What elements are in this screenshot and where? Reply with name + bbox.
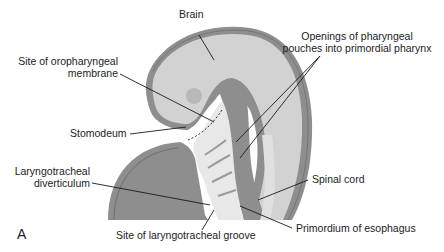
label-esophagus: Primordium of esophagus bbox=[296, 222, 416, 234]
label-brain: Brain bbox=[179, 8, 204, 20]
label-laryngo-line2: diverticulum bbox=[8, 177, 90, 189]
label-laryngotracheal-groove: Site of laryngotracheal groove bbox=[116, 229, 256, 241]
label-oropharyngeal-line1: Site of oropharyngeal bbox=[14, 55, 118, 67]
leader-stomodeum bbox=[130, 127, 186, 134]
label-pouches-line2: pouches into primordial pharynx bbox=[282, 42, 432, 54]
panel-label: A bbox=[17, 226, 26, 242]
label-pouches-line1: Openings of pharyngeal bbox=[282, 30, 432, 42]
label-stomodeum: Stomodeum bbox=[70, 127, 127, 139]
label-oropharyngeal-line2: membrane bbox=[14, 67, 118, 79]
label-oropharyngeal-membrane: Site of oropharyngeal membrane bbox=[14, 55, 118, 79]
label-laryngotracheal-diverticulum: Laryngotracheal diverticulum bbox=[8, 165, 90, 189]
label-pharyngeal-pouches: Openings of pharyngeal pouches into prim… bbox=[282, 30, 432, 54]
eye-placode bbox=[186, 88, 202, 104]
label-laryngo-line1: Laryngotracheal bbox=[8, 165, 90, 177]
label-spinal-cord: Spinal cord bbox=[312, 173, 365, 185]
